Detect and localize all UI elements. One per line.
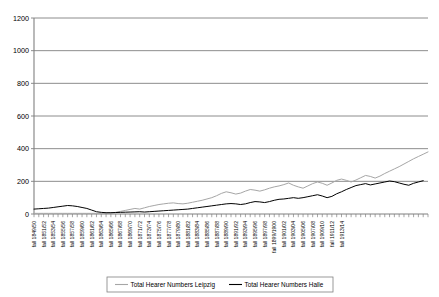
x-axis-tick-label: fall 1905/06 — [300, 221, 306, 248]
line-chart: 020040060080010001200 fall 1849/50fall 1… — [0, 0, 439, 297]
x-axis-tick-label: fall 1855/56 — [60, 221, 66, 248]
x-axis-tick-label: fall 1909/10 — [319, 221, 325, 248]
legend-label: Total Hearer Numbers Halle — [245, 281, 324, 288]
x-axis-tick-label: fall 1897/98 — [262, 221, 268, 248]
x-axis-tick-label: fall 1877/78 — [166, 221, 172, 248]
y-axis-tick-label: 800 — [17, 79, 29, 88]
x-axis-tick-label: fall 1885/86 — [204, 221, 210, 248]
y-axis-tick-label: 1200 — [13, 14, 29, 23]
x-axis-tick-label: fall 1887/88 — [214, 221, 220, 248]
x-axis-tick-label: fall 1913/14 — [339, 221, 345, 248]
x-axis-tick-label: fall 1883/84 — [194, 221, 200, 248]
x-axis-tick-label: fall 1863/64 — [98, 221, 104, 248]
y-axis-tick-label: 1000 — [13, 46, 29, 55]
x-axis-tick-label: fall 1895/96 — [252, 221, 258, 248]
y-axis-tick-label: 600 — [17, 112, 29, 121]
x-axis-tick-label: fall 1891/92 — [233, 221, 239, 248]
x-axis-tick-label: fall 1911/12 — [329, 221, 335, 247]
y-axis-tick-label: 400 — [17, 144, 29, 153]
x-axis-tick-label: fall 1851/52 — [41, 221, 47, 248]
chart-legend: Total Hearer Numbers LeipzigTotal Hearer… — [107, 277, 333, 292]
x-axis-tick-label: fall 1857/58 — [69, 221, 75, 248]
chart-svg: 020040060080010001200 fall 1849/50fall 1… — [0, 0, 439, 297]
legend-label: Total Hearer Numbers Leipzig — [131, 281, 216, 289]
chart-container: 020040060080010001200 fall 1849/50fall 1… — [0, 0, 439, 297]
x-axis-tick-label: fall 1873/74 — [146, 221, 152, 248]
x-axis-tick-label: fall 1899/1900 — [271, 221, 277, 253]
x-axis-tick-label: fall 1849/50 — [31, 221, 37, 248]
x-axis-tick-label: fall 1879/80 — [175, 221, 181, 248]
x-axis-tick-label: fall 1871/72 — [137, 221, 143, 248]
y-axis-tick-label: 0 — [25, 210, 29, 219]
x-axis-tick-label: fall 1881/82 — [185, 221, 191, 248]
x-axis-tick-label: fall 1861/62 — [89, 221, 95, 248]
y-axis-tick-label: 200 — [17, 177, 29, 186]
x-axis-tick-label: fall 1893/94 — [242, 221, 248, 248]
x-axis-tick-label: fall 1889/90 — [223, 221, 229, 248]
x-axis-tick-label: fall 1853/54 — [50, 221, 56, 248]
x-axis-tick-label: fall 1867/68 — [117, 221, 123, 248]
x-axis-tick-label: fall 1869/70 — [127, 221, 133, 248]
x-axis-tick-label: fall 1865/66 — [108, 221, 114, 248]
x-axis-tick-label: fall 1907/08 — [310, 221, 316, 248]
x-axis-tick-label: fall 1875/76 — [156, 221, 162, 248]
x-axis-tick-label: fall 1901/02 — [281, 221, 287, 248]
x-axis-tick-label: fall 1859/60 — [79, 221, 85, 248]
x-axis-tick-label: fall 1903/04 — [290, 221, 296, 248]
